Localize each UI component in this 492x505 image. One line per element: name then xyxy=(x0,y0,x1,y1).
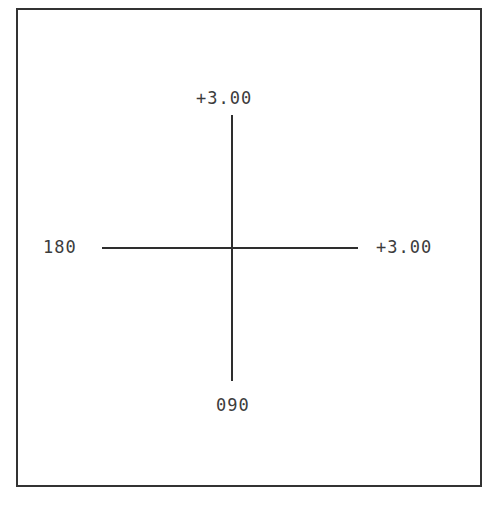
bottom-axis-label: 090 xyxy=(216,395,250,415)
top-axis-label: +3.00 xyxy=(196,88,252,108)
right-axis-label: +3.00 xyxy=(376,237,432,257)
left-axis-label: 180 xyxy=(43,237,77,257)
horizontal-axis-line xyxy=(102,247,358,249)
vertical-axis-line xyxy=(231,115,233,381)
